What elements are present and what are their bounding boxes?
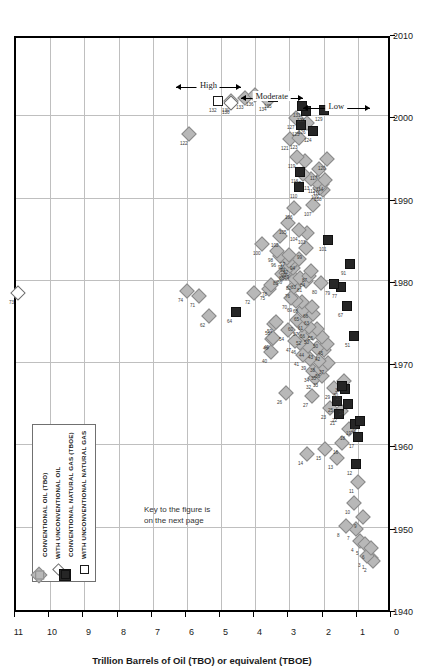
data-point-label: 87 [302,278,307,283]
data-point-label: 71 [190,303,195,308]
data-point-label: 127 [287,125,295,130]
data-point-label: 52 [296,341,301,346]
data-point-label: 69 [287,308,292,313]
gridline-value [324,38,325,610]
data-point-label: 73 [9,300,14,305]
data-point-label: 49 [264,345,269,350]
x-tick-label: 2010 [383,31,423,41]
y-tickmark [390,612,391,617]
y-tick-label: 1 [345,627,365,637]
data-point-label: 34 [304,378,309,383]
data-point-label: 97 [280,262,285,267]
data-point [10,285,26,301]
data-point-label: 116 [291,179,298,184]
chart-legend: CONVENTIONAL OIL (TBO) WITH UNCONVENTION… [32,424,96,582]
x-tick-label: 1940 [383,607,423,617]
data-point-label: 3 [358,563,361,568]
data-point-label: 26 [277,400,282,405]
data-point [345,259,355,269]
data-point-label: 43 [308,355,313,360]
data-point-label: 27 [303,403,308,408]
key-note: Key to the figure is on the next page [144,505,210,527]
y-tick-label: 8 [106,627,126,637]
data-point-label: 24 [339,411,344,416]
data-point-label: 7 [347,536,350,541]
data-point-label: 122 [180,141,188,146]
data-point-label: 37 [319,370,324,375]
y-tickmark [82,612,83,617]
data-point-label: 23 [321,415,326,420]
data-point-label: 66 [303,314,308,319]
y-tickmark [219,612,220,617]
y-tickmark [151,612,152,617]
data-point [246,285,262,301]
data-point-label: 70 [282,305,287,310]
data-point-label: 107 [304,212,312,217]
y-tickmark [48,612,49,617]
data-point-label: 130 [222,110,230,115]
annotation-bracket-low: Low [303,102,370,114]
data-point-label: 79 [325,291,330,296]
data-point-label: 59 [267,329,272,334]
data-point-label: 60 [288,327,293,332]
data-point-label: 44 [299,353,304,358]
y-tickmark [117,612,118,617]
data-point-label: 64 [227,319,232,324]
y-tick-label: 6 [174,627,194,637]
data-point-label: 36 [315,374,320,379]
data-point-label: 29 [325,395,330,400]
data-point-label: 30 [333,393,338,398]
y-tick-label: 3 [276,627,296,637]
data-point-label: 105 [279,230,287,235]
data-point-label: 46 [291,350,296,355]
data-point-label: 68 [293,309,298,314]
legend-label: CONVENTIONAL NATURAL GAS (TBOE) [67,432,74,557]
y-tick-label: 2 [311,627,331,637]
data-point [329,279,339,289]
open-square-icon [79,565,89,575]
gridline-value [119,38,120,610]
annotation-label: Moderate [253,91,292,101]
data-point-label: 63 [304,321,309,326]
data-point-label: 100 [253,251,261,256]
data-point [254,236,270,252]
data-point-label: 80 [312,290,317,295]
data-point-label: 15 [316,456,321,461]
data-point-label: 12 [347,471,352,476]
legend-label: WITH UNCONVENTIONAL NATURAL GAS [80,431,87,559]
y-axis-title: Trillion Barrels of Oil (TBO) or equival… [92,655,312,666]
x-tick-label: 1950 [383,525,423,535]
data-point-label: 16 [333,450,338,455]
y-tick-label: 4 [242,627,262,637]
data-point-label: 39 [301,366,306,371]
y-tick-label: 7 [140,627,160,637]
data-point-label: 20 [351,428,356,433]
data-point [349,331,359,341]
legend-item-unconventional-oil: WITH UNCONVENTIONAL OIL [51,431,64,575]
data-point-label: 67 [338,313,343,318]
data-point [181,127,197,143]
data-point-label: 32 [306,385,311,390]
data-point-label: 10 [345,510,350,515]
data-point-label: 25 [328,408,333,413]
data-point-label: 50 [313,344,318,349]
data-point [342,301,352,311]
data-point-label: 123 [290,145,298,150]
legend-item-conventional-oil: CONVENTIONAL OIL (TBO) [38,431,51,575]
data-point [304,388,320,404]
data-point-label: 77 [332,294,337,299]
data-point-label: 8 [337,533,340,538]
gridline-year [16,115,388,116]
data-point-label: 104 [290,237,298,242]
y-tick-label: 11 [3,627,23,637]
data-point [286,201,302,217]
legend-item-conventional-gas: CONVENTIONAL NATURAL GAS (TBOE) [64,431,77,575]
data-point-label: 51 [345,343,350,348]
data-point-label: 114 [316,187,323,192]
data-point-label: 121 [281,146,289,151]
data-point-label: 65 [294,317,299,322]
data-point [323,235,333,245]
data-point-label: 42 [315,357,320,362]
y-tickmark [253,612,254,617]
x-tick-label: 1980 [383,278,423,288]
